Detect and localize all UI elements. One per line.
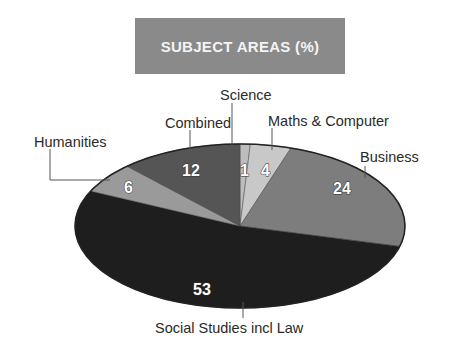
value-science: 1 xyxy=(240,162,249,179)
label-science: Science xyxy=(220,87,272,103)
label-humanities: Humanities xyxy=(34,134,107,150)
label-combined: Combined xyxy=(165,115,231,131)
label-social: Social Studies incl Law xyxy=(155,320,304,336)
value-social: 53 xyxy=(193,281,211,298)
value-business: 24 xyxy=(333,180,351,197)
pie-chart: Science Combined Maths & Computer Busine… xyxy=(0,0,462,339)
label-maths: Maths & Computer xyxy=(268,113,389,129)
value-combined: 12 xyxy=(182,162,200,179)
label-business: Business xyxy=(360,149,419,165)
value-maths: 4 xyxy=(261,162,270,179)
value-humanities: 6 xyxy=(124,179,133,196)
